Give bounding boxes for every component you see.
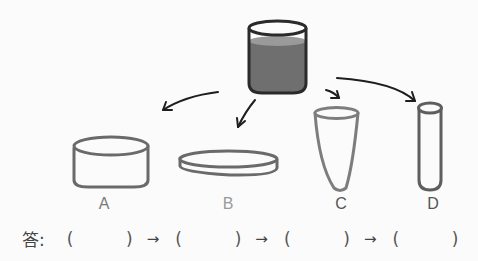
close-paren: )	[235, 229, 242, 249]
close-paren: )	[343, 229, 350, 249]
close-paren: )	[452, 229, 459, 249]
label-a: A	[99, 195, 110, 213]
sequence-arrow-icon: →	[147, 230, 160, 248]
answer-slot-3[interactable]: ()	[284, 229, 350, 249]
answer-row: 答: () → () → () → ()	[22, 226, 458, 251]
container-b	[180, 151, 277, 175]
container-d	[419, 103, 442, 190]
answer-slot-1[interactable]: ()	[67, 229, 133, 249]
container-a	[74, 137, 148, 187]
open-paren: (	[392, 229, 399, 249]
open-paren: (	[284, 229, 291, 249]
sequence-arrow-icon: →	[255, 230, 268, 248]
answer-slot-2[interactable]: ()	[175, 229, 241, 249]
source-beaker	[249, 21, 306, 93]
close-paren: )	[126, 229, 133, 249]
label-d: D	[427, 195, 439, 213]
sequence-arrow-icon: →	[364, 230, 377, 248]
container-c	[315, 108, 358, 191]
open-paren: (	[67, 229, 74, 249]
label-c: C	[335, 195, 347, 213]
label-b: B	[223, 195, 234, 213]
diagram-scene	[0, 0, 478, 261]
open-paren: (	[175, 229, 182, 249]
answer-prefix: 答:	[22, 226, 45, 251]
answer-slot-4[interactable]: ()	[392, 229, 458, 249]
